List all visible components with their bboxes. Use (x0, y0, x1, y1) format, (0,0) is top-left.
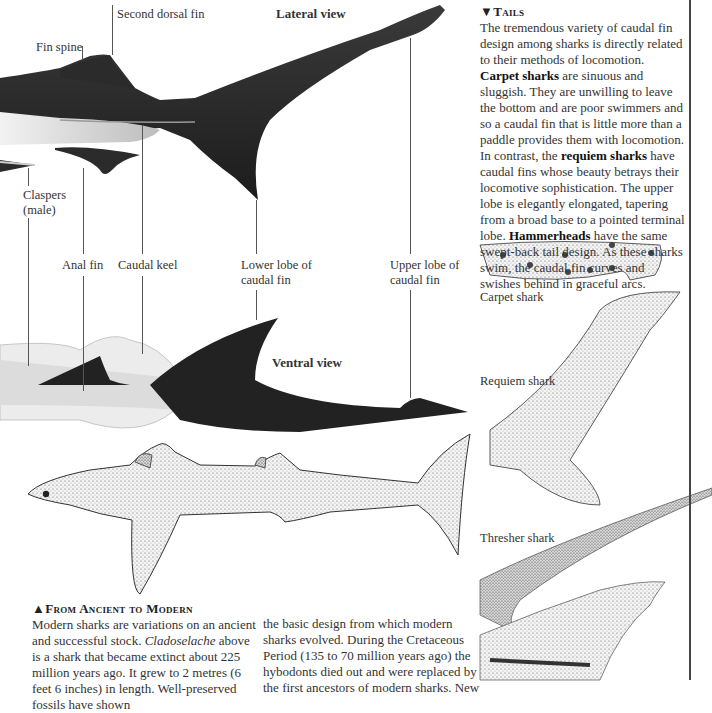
caption-carpet-shark: Carpet shark (480, 290, 544, 305)
triangle-up-icon: ▲ (32, 601, 45, 616)
leader-anal-fin-bottom (83, 276, 84, 391)
caption-thresher-shark: Thresher shark (480, 531, 555, 546)
ancient-section: ▲From Ancient to Modern Modern sharks ar… (32, 601, 257, 713)
lateral-body (0, 5, 445, 200)
tails-body: The tremendous variety of caudal fin des… (480, 20, 685, 292)
label-fin-spine: Fin spine (36, 40, 82, 55)
ventral-view-title: Ventral view (272, 355, 342, 371)
leader-upper-lobe-bottom (410, 290, 411, 398)
tails-section: ▼Tails The tremendous variety of caudal … (480, 4, 685, 292)
leader-claspers-top (28, 168, 29, 186)
lateral-view-title: Lateral view (276, 6, 346, 22)
ventral-caudal-fin (150, 318, 468, 432)
leader-lower-lobe-top (256, 200, 257, 254)
label-claspers: Claspers (male) (23, 188, 66, 218)
label-upper-lobe: Upper lobe of caudal fin (390, 258, 459, 288)
ancient-body-col1: Modern sharks are variations on an ancie… (32, 617, 257, 713)
cladoselache-illustration (28, 434, 470, 594)
leader-caudal-keel-top (142, 125, 143, 254)
label-second-dorsal-fin: Second dorsal fin (117, 7, 204, 22)
label-caudal-keel: Caudal keel (118, 258, 177, 273)
leader-upper-lobe-top (410, 38, 411, 254)
leader-caudal-keel-bottom (142, 276, 143, 354)
caption-requiem-shark: Requiem shark (480, 374, 555, 389)
label-lower-lobe: Lower lobe of caudal fin (241, 258, 312, 288)
ancient-body-col2: the basic design from which modern shark… (263, 616, 483, 696)
leader-anal-fin-top (83, 168, 84, 254)
column-rule (689, 0, 691, 680)
triangle-down-icon: ▼ (480, 4, 493, 19)
tails-heading: ▼Tails (480, 4, 685, 20)
leader-fin-spine (82, 46, 83, 60)
requiem-shark-tail (490, 292, 680, 505)
ancient-heading: ▲From Ancient to Modern (32, 601, 257, 617)
leader-second-dorsal-fin (112, 5, 113, 55)
leader-lower-lobe-bottom (256, 290, 257, 320)
label-anal-fin: Anal fin (62, 258, 103, 273)
leader-claspers-bottom (28, 218, 29, 366)
anal-fin-lateral (55, 147, 140, 174)
